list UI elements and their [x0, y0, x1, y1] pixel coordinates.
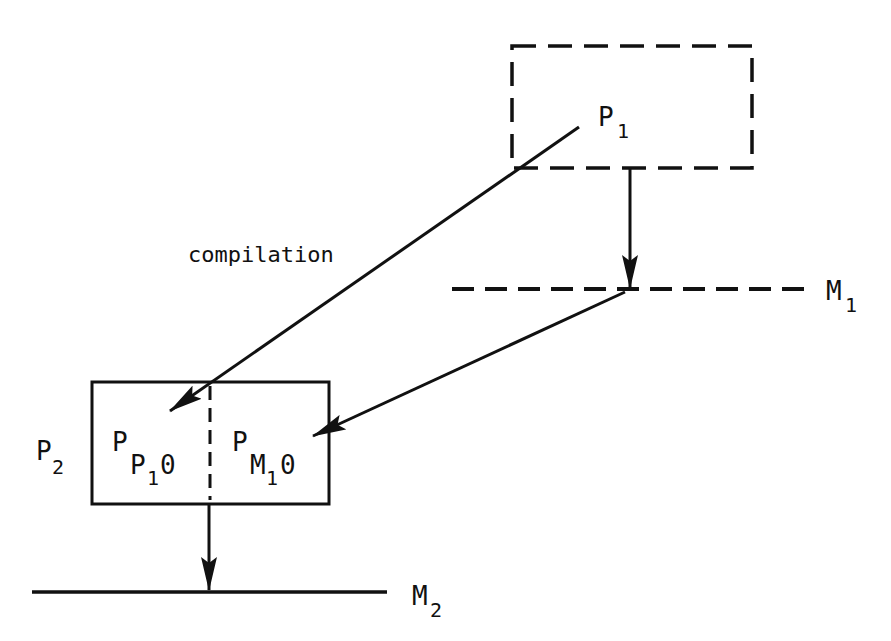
compilation-label: compilation [188, 242, 334, 267]
compartment-right-suffix: 0 [280, 450, 296, 480]
p2-subscript: 2 [52, 455, 64, 479]
m2-label: M [412, 581, 428, 611]
diagram-canvas: P 1 M 1 compilation P 2 P P 1 0 P M 1 0 [0, 0, 891, 641]
p2-node: P 2 P P 1 0 P M 1 0 [36, 382, 329, 504]
compartment-left-label: P [112, 427, 128, 457]
m1-label: M [826, 276, 842, 306]
arrow-compilation [170, 127, 579, 411]
compartment-right-label: P [232, 427, 248, 457]
p1-subscript: 1 [617, 119, 629, 143]
p1-label: P [598, 102, 614, 132]
arrow-m1-to-p2 [313, 292, 625, 436]
compartment-left-suffix: 0 [160, 450, 176, 480]
p2-left-compartment: P P 1 0 [112, 427, 176, 490]
m2-node: M 2 [32, 581, 442, 622]
m2-subscript: 2 [430, 598, 442, 622]
compartment-right-sub2: 1 [266, 466, 278, 490]
compartment-left-sub2: 1 [147, 466, 159, 490]
m1-node: M 1 [452, 276, 857, 317]
compartment-left-sub1: P [130, 450, 146, 480]
m1-subscript: 1 [845, 293, 857, 317]
p2-label: P [36, 436, 52, 466]
compartment-right-sub1: M [250, 450, 266, 480]
p2-right-compartment: P M 1 0 [232, 427, 296, 490]
